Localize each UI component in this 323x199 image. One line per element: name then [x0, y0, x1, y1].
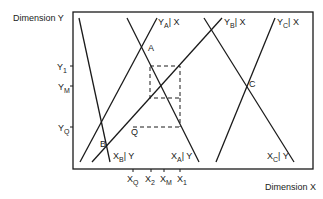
- line-ya-given-x: [80, 18, 157, 162]
- point-label-a: A: [148, 44, 154, 53]
- x-tick-label-x1: X1: [177, 175, 187, 184]
- label-yb-given-x: YB| X: [224, 18, 246, 27]
- x-tick-label-xq: XQ: [127, 175, 138, 184]
- x-axis-title: Dimension X: [265, 183, 316, 192]
- y-axis-title: Dimension Y: [13, 14, 64, 23]
- diagram-canvas: [0, 0, 323, 199]
- point-label-b: B: [100, 140, 106, 149]
- y-tick-label-ym: YM: [58, 83, 70, 92]
- line-yb-given-x: [92, 18, 222, 162]
- line-xc-given-y: [204, 18, 294, 162]
- label-yc-given-x: YC| X: [277, 18, 299, 27]
- label-xa-given-y: XA| Y: [171, 152, 192, 161]
- x-tick-label-x2: X2: [145, 175, 155, 184]
- label-ya-given-x: YA| X: [158, 18, 180, 27]
- point-label-c: C: [249, 80, 256, 89]
- line-yc-given-x: [216, 18, 275, 162]
- x-tick-label-xm: XM: [160, 175, 172, 184]
- plot-frame: [73, 12, 313, 169]
- y-tick-label-y1: Y1: [57, 63, 67, 72]
- y-tick-label-yq: YQ: [58, 124, 69, 133]
- label-xb-given-y: XB| Y: [113, 152, 134, 161]
- label-xc-given-y: XC| Y: [267, 152, 289, 161]
- line-xa-given-y: [127, 18, 199, 162]
- point-label-q: Q: [131, 128, 138, 137]
